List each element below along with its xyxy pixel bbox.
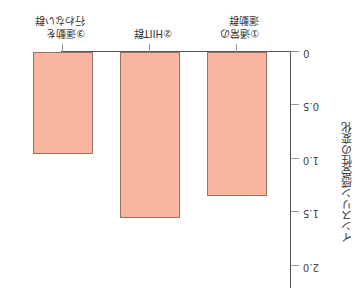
y-tick-label: 2.0 (303, 262, 327, 273)
y-tick (291, 51, 299, 52)
bar (33, 52, 93, 154)
category-label: ②HIIT群 (134, 27, 173, 40)
category-label: ③運動を 行わない群 (35, 14, 85, 40)
category-label: ①通常の 運動群 (220, 14, 259, 40)
x-tick (236, 44, 237, 52)
y-tick (291, 105, 299, 106)
y-tick-label: 0 (303, 48, 327, 59)
y-tick (291, 265, 299, 266)
y-tick-label: 0.5 (303, 102, 327, 113)
y-axis-line (290, 52, 291, 288)
bar (207, 52, 267, 196)
x-tick (149, 44, 150, 52)
x-tick (62, 44, 63, 52)
bar (120, 52, 180, 218)
y-tick-label: 1.0 (303, 155, 327, 166)
y-tick-label: 1.5 (303, 209, 327, 220)
y-tick (291, 212, 299, 213)
y-tick (291, 158, 299, 159)
chart-canvas: 00.51.01.52.0 インスリン感受性の変化 ①通常の 運動群②HIIT群… (0, 0, 362, 303)
y-axis-label: インスリン感受性の変化 (340, 122, 356, 243)
